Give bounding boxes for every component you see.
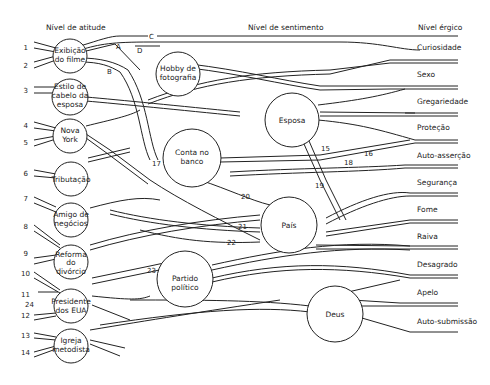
- path-label-a: A: [116, 43, 121, 51]
- header-sentiment-level: Nível de sentimento: [248, 23, 324, 32]
- path-label-17: 17: [152, 160, 161, 168]
- path-label-20: 20: [241, 193, 250, 201]
- node-label: Presidente: [51, 297, 91, 306]
- input-number-24: 24: [25, 301, 34, 309]
- sentiment-node-partido: Partido político: [157, 251, 213, 307]
- node-label: negócios: [54, 219, 88, 228]
- node-label: Partido: [172, 274, 199, 283]
- attitude-node-presidente: Presidente dos EUA: [51, 289, 91, 323]
- node-label: Conta no: [175, 148, 209, 157]
- node-label: esposa: [57, 100, 83, 109]
- input-number-10: 10: [21, 270, 30, 278]
- input-number-3: 3: [24, 87, 28, 95]
- sentiment-node-pais: País: [261, 197, 317, 253]
- sentiment-node-deus: Deus: [307, 286, 363, 342]
- node-label: dos EUA: [56, 306, 88, 315]
- input-number-4: 4: [24, 122, 29, 130]
- path-label-d: D: [137, 47, 142, 55]
- node-label: cabelo da: [52, 91, 89, 100]
- node-label: do filme: [55, 55, 86, 64]
- channel-paths: [80, 36, 420, 356]
- node-label: York: [61, 135, 78, 144]
- node-label: fotografia: [160, 73, 197, 82]
- ergic-labels: Curiosidade Sexo Gregariedade Proteção A…: [417, 43, 477, 326]
- dynamic-lattice-diagram: Nível de atitude Nível de sentimento Nív…: [0, 0, 490, 385]
- path-label-18: 18: [344, 159, 353, 167]
- ergic-curiosidade: Curiosidade: [417, 43, 462, 52]
- node-label: Deus: [325, 310, 344, 319]
- input-number-14: 14: [21, 349, 30, 357]
- path-label-23: 23: [147, 267, 156, 275]
- node-label: divórcio: [56, 267, 86, 276]
- input-number-8: 8: [24, 223, 28, 231]
- node-label: Exibição: [54, 46, 86, 55]
- node-label: banco: [181, 157, 204, 166]
- attitude-node-estilo: Estilo de cabelo da esposa: [52, 79, 89, 115]
- input-numbers: 1 2 3 4 5 6 7 8 9 10 11 24 12 13 14: [21, 44, 34, 357]
- node-label: Nova: [60, 126, 79, 135]
- input-number-12: 12: [21, 312, 30, 320]
- attitude-node-nova-york: Nova York: [53, 119, 87, 153]
- node-label: País: [282, 221, 297, 230]
- ergic-gregariedade: Gregariedade: [417, 97, 469, 106]
- input-number-9: 9: [24, 250, 28, 258]
- path-label-16: 16: [364, 150, 373, 158]
- input-number-11: 11: [21, 291, 30, 299]
- ergic-apelo: Apelo: [417, 288, 439, 297]
- input-number-7: 7: [24, 195, 28, 203]
- sentiment-node-hobby: Hobby de fotografia: [156, 52, 200, 96]
- node-label: Tributação: [50, 175, 90, 184]
- node-label: do: [66, 258, 76, 267]
- header-attitude-level: Nível de atitude: [46, 23, 106, 32]
- sentiment-node-conta: Conta no banco: [163, 129, 221, 187]
- attitude-node-amigo: Amigo de negócios: [53, 203, 89, 237]
- node-label: político: [171, 283, 199, 292]
- path-label-c: C: [149, 33, 154, 41]
- input-number-5: 5: [24, 139, 28, 147]
- ergic-fome: Fome: [417, 205, 438, 214]
- sentiment-node-esposa: Esposa: [265, 93, 319, 147]
- input-number-2: 2: [24, 62, 28, 70]
- input-number-13: 13: [21, 332, 30, 340]
- attitude-node-exibicao: Exibição do filme: [53, 39, 87, 73]
- path-label-21: 21: [238, 223, 247, 231]
- attitude-node-reforma: Reforma do divórcio: [54, 245, 88, 279]
- input-number-1: 1: [24, 44, 28, 52]
- ergic-sexo: Sexo: [417, 70, 435, 79]
- node-label: Estilo de: [54, 82, 86, 91]
- ergic-protecao: Proteção: [417, 123, 450, 132]
- ergic-auto-assercao: Auto-asserção: [417, 151, 471, 160]
- node-label: Amigo de: [53, 210, 89, 219]
- node-label: Igreja: [60, 336, 81, 345]
- input-number-6: 6: [24, 170, 29, 178]
- attitude-node-tributacao: Tributação: [50, 162, 90, 196]
- path-label-19: 19: [315, 182, 324, 190]
- path-label-15: 15: [321, 145, 330, 153]
- ergic-desagrado: Desagrado: [417, 260, 458, 269]
- path-label-22: 22: [227, 239, 236, 247]
- node-label: Esposa: [279, 116, 306, 125]
- attitude-node-igreja: Igreja metodista: [52, 329, 90, 363]
- ergic-auto-submissao: Auto-submissão: [417, 317, 477, 326]
- header-ergic-level: Nível érgico: [418, 23, 463, 32]
- node-label: Hobby de: [160, 64, 196, 73]
- node-label: metodista: [52, 345, 90, 354]
- ergic-raiva: Raiva: [417, 232, 438, 241]
- ergic-seguranca: Segurança: [417, 178, 457, 187]
- path-label-b: B: [107, 68, 112, 76]
